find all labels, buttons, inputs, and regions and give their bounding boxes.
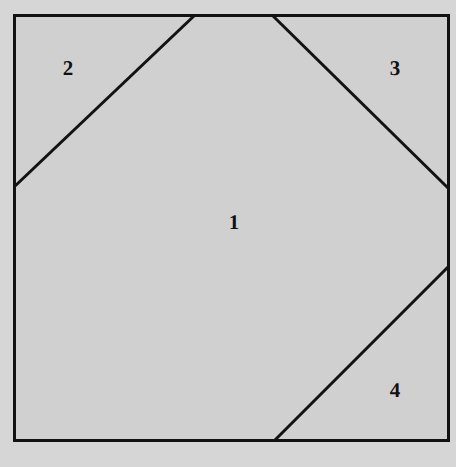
geometry-figure: 1 2 3 4 <box>0 0 456 467</box>
region-label-3: 3 <box>390 58 401 79</box>
region-label-2: 2 <box>63 58 74 79</box>
region-label-1: 1 <box>229 212 240 233</box>
region-label-4: 4 <box>390 380 401 401</box>
